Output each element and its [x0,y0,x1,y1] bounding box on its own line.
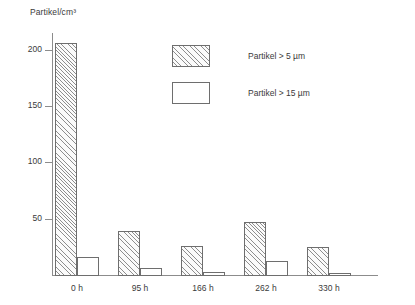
y-tick-label: 100 [18,156,42,166]
bar [266,261,288,276]
legend-label-particles-gt-15um: Partikel > 15 µm [248,88,310,98]
x-tick-label: 262 h [255,283,276,293]
bar [181,246,203,276]
legend-item-particles-gt-5um: Partikel > 5 µm [172,45,305,67]
x-tick-label: 330 h [318,283,339,293]
y-tick-label: 200 [18,44,42,54]
y-tick-mark [45,162,53,163]
bar [55,43,77,276]
bar [244,222,266,276]
particle-count-bar-chart: Partikel/cm³ 50100150200 0 h95 h166 h262… [0,0,415,305]
bar [140,268,162,276]
y-tick-label: 50 [18,213,42,223]
legend-swatch-open [172,82,210,104]
y-tick-mark [45,219,53,220]
y-tick-mark [45,106,53,107]
legend-label-particles-gt-5um: Partikel > 5 µm [248,51,305,61]
bar [307,247,329,276]
bar [203,272,225,277]
y-axis-line [52,33,53,276]
bar [118,231,140,276]
y-tick-mark [45,50,53,51]
legend-item-particles-gt-15um: Partikel > 15 µm [172,82,310,104]
bar [77,257,99,276]
bar [329,273,351,276]
x-tick-label: 95 h [132,283,149,293]
x-tick-label: 0 h [71,283,83,293]
y-tick-label: 150 [18,100,42,110]
legend-swatch-hatched [172,45,210,67]
x-tick-label: 166 h [192,283,213,293]
